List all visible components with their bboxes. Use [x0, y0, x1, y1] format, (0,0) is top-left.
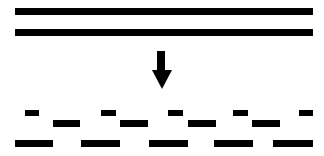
- long-dashes-segment-4: [214, 140, 253, 147]
- long-dashes-segment-1: [15, 140, 53, 147]
- medium-dashes-segment-2: [120, 120, 148, 127]
- short-dashes-segment-3: [168, 110, 183, 116]
- arrow-down-icon: [0, 0, 324, 156]
- long-dashes-segment-2: [81, 140, 120, 147]
- medium-dashes-segment-3: [188, 120, 216, 127]
- medium-dashes-segment-4: [252, 120, 280, 127]
- arrow-head: [152, 70, 172, 89]
- diagram-canvas: Two continuous horizontal lines transfor…: [0, 0, 324, 156]
- short-dashes-segment-5: [299, 110, 313, 116]
- medium-dashes-segment-1: [53, 120, 80, 127]
- short-dashes-segment-4: [233, 110, 248, 116]
- arrow-shaft: [157, 51, 165, 71]
- long-dashes-segment-5: [273, 140, 313, 147]
- short-dashes-segment-2: [101, 110, 116, 116]
- long-dashes-segment-3: [149, 140, 188, 147]
- short-dashes-segment-1: [25, 110, 39, 116]
